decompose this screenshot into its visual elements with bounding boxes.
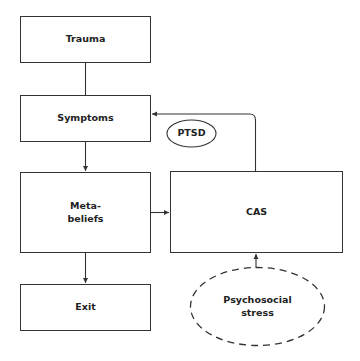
node-ptsd: PTSD [167,120,216,147]
node-cas: CAS [170,171,343,253]
node-psychosocial-stress-label-line1: Psychosocial [223,294,291,307]
node-meta-beliefs-label-line1: Meta- [70,200,101,212]
node-ptsd-label: PTSD [177,127,205,140]
node-psychosocial-stress: Psychosocial stress [190,268,325,346]
node-exit-label: Exit [75,301,95,313]
node-meta-beliefs: Meta- beliefs [20,172,151,253]
node-trauma: Trauma [20,16,151,63]
edge-stress-cas [255,254,256,268]
node-cas-label: CAS [246,206,267,218]
node-exit: Exit [20,284,151,331]
node-symptoms: Symptoms [20,95,151,142]
node-symptoms-label: Symptoms [57,112,113,124]
node-psychosocial-stress-label-line2: stress [241,307,274,320]
node-meta-beliefs-label-line2: beliefs [68,213,104,225]
node-trauma-label: Trauma [66,33,106,45]
